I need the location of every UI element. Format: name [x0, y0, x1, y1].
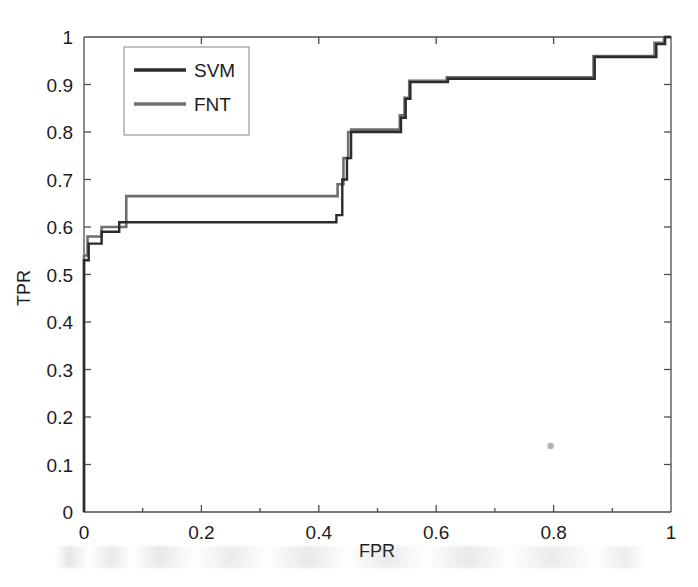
y-tick-label: 0.4 [47, 312, 74, 333]
x-tick-label: 1 [666, 522, 677, 543]
x-tick-label: 0.6 [423, 522, 449, 543]
roc-chart: 00.10.20.30.40.50.60.70.80.91 00.20.40.6… [0, 0, 698, 587]
x-tick-label: 0.4 [306, 522, 333, 543]
annotation-group [547, 443, 553, 449]
chart-legend: SVM FNT [124, 47, 249, 135]
roc-curve-figure: 00.10.20.30.40.50.60.70.80.91 00.20.40.6… [0, 0, 698, 587]
y-tick-label: 0.2 [47, 407, 73, 428]
x-tick-label: 0 [79, 522, 90, 543]
x-axis-title: FPR [359, 541, 395, 561]
y-tick-label: 0.9 [47, 75, 73, 96]
y-tick-label: 0.1 [47, 455, 73, 476]
y-tick-label: 0 [62, 502, 73, 523]
y-tick-label: 0.3 [47, 360, 73, 381]
y-tick-labels: 00.10.20.30.40.50.60.70.80.91 [47, 27, 74, 523]
y-tick-label: 0.7 [47, 170, 73, 191]
y-axis-title: TPR [14, 270, 34, 306]
legend-label-svm: SVM [194, 60, 235, 81]
y-tick-label: 0.8 [47, 122, 73, 143]
y-tick-label: 0.5 [47, 265, 73, 286]
x-tick-labels: 00.20.40.60.81 [79, 522, 677, 543]
x-tick-label: 0.8 [540, 522, 566, 543]
y-tick-label: 1 [62, 27, 73, 48]
y-tick-marks [84, 85, 671, 465]
legend-label-fnt: FNT [194, 94, 231, 115]
y-tick-label: 0.6 [47, 217, 73, 238]
x-tick-label: 0.2 [188, 522, 214, 543]
stray-dot [547, 443, 553, 449]
